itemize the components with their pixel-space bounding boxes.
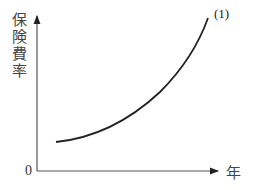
y-axis-label-char: 険	[12, 29, 27, 46]
y-axis-label-char: 率	[12, 63, 27, 80]
x-axis-label: 年	[226, 161, 241, 182]
y-axis-label-char: 保	[12, 12, 27, 29]
y-axis-label: 保 険 費 率	[10, 12, 28, 80]
origin-label: 0	[25, 163, 32, 179]
chart-canvas	[0, 0, 254, 190]
y-axis-label-char: 費	[12, 46, 27, 63]
series-label: (1)	[214, 6, 229, 22]
series-curve-1	[56, 18, 208, 142]
